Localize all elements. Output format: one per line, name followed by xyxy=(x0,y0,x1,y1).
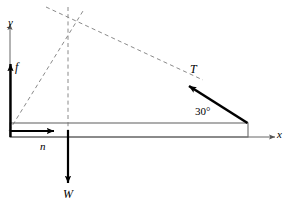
x-axis-label: x xyxy=(277,129,282,140)
tension-dashed-line xyxy=(46,7,203,80)
normal-force-label: n xyxy=(40,141,46,152)
construction-lines xyxy=(9,7,203,137)
friction-force-label: f xyxy=(15,61,18,73)
y-axis-label: y xyxy=(8,17,13,28)
free-body-diagram: y x f n W T 30° xyxy=(0,0,291,209)
tension-angle-label: 30° xyxy=(195,106,210,117)
diagram-canvas xyxy=(0,0,291,209)
weight-force-label: W xyxy=(63,188,73,200)
tension-force-label: T xyxy=(190,63,197,75)
friction-dashed-line xyxy=(9,11,83,131)
coordinate-axes xyxy=(10,24,275,137)
